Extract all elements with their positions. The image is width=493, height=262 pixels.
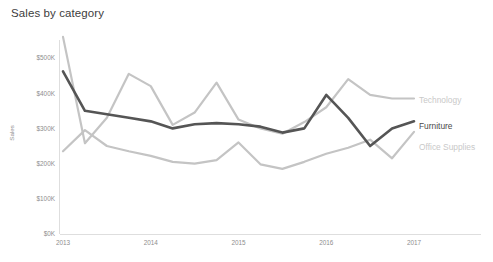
y-axis: $0K $100K $200K $300K $400K $500K Sales (8, 40, 60, 237)
y-tick-label-2: $200K (37, 160, 56, 167)
series-line-furniture (63, 71, 414, 146)
y-tick-label-4: $400K (37, 90, 56, 97)
series-group (63, 37, 414, 169)
y-tick-label-3: $300K (37, 125, 56, 132)
series-label-furniture[interactable]: Furniture (419, 121, 453, 131)
series-line-technology (63, 37, 414, 143)
y-tick-label-5: $500K (37, 54, 56, 61)
x-tick-label-2: 2015 (231, 239, 246, 246)
line-chart-svg: $0K $100K $200K $300K $400K $500K Sales … (0, 0, 493, 262)
y-tick-label-0: $0K (44, 230, 56, 237)
y-tick-label-1: $100K (37, 195, 56, 202)
plot-area: $0K $100K $200K $300K $400K $500K Sales … (0, 0, 493, 262)
y-axis-title: Sales (8, 125, 15, 140)
x-tick-label-4: 2017 (407, 239, 422, 246)
x-axis: 2013 2014 2015 2016 2017 (56, 235, 481, 247)
x-tick-label-3: 2016 (319, 239, 334, 246)
series-label-technology[interactable]: Technology (419, 95, 462, 105)
series-label-office-supplies[interactable]: Office Supplies (419, 142, 475, 152)
chart-viz-root: Sales by category $0K $100K $200K $300K … (0, 0, 493, 262)
series-labels: Technology Furniture Office Supplies (419, 95, 475, 152)
x-tick-label-0: 2013 (56, 239, 71, 246)
x-tick-label-1: 2014 (144, 239, 159, 246)
